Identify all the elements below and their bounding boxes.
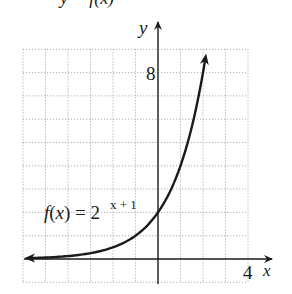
y-tick-label-8: 8 <box>146 63 156 84</box>
x-tick-label-4: 4 <box>243 262 253 283</box>
grid <box>23 49 248 282</box>
x-axis-label: x <box>262 261 271 280</box>
function-label: f(x) = 2 <box>44 202 100 224</box>
function-exponent: x + 1 <box>110 197 137 212</box>
function-curve <box>28 59 206 258</box>
y-axis-label: y <box>137 17 148 38</box>
exponential-graph: y = f(x) y x 8 4 f(x) = 2 x + 1 <box>0 0 292 294</box>
header-fragment: y = f(x) <box>58 0 114 9</box>
